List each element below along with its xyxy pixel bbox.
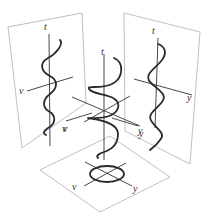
left-v-label-upper: v bbox=[19, 85, 24, 96]
right-t-label: t bbox=[152, 25, 155, 36]
right-y-label-upper: y bbox=[186, 92, 192, 103]
bottom-v-label: v bbox=[72, 181, 77, 192]
right-panel-frame bbox=[124, 13, 200, 164]
left-panel-vt: t v v bbox=[8, 13, 92, 148]
right-panel-yt: t y y bbox=[112, 13, 200, 164]
bottom-panel-vy: v y bbox=[40, 136, 170, 212]
center-t-label: t bbox=[101, 46, 104, 57]
center-y-label: y bbox=[137, 125, 143, 136]
bottom-y-label: y bbox=[132, 183, 138, 194]
center-v-label: v bbox=[63, 123, 68, 134]
left-t-label: t bbox=[44, 21, 47, 32]
helix-projection-diagram: t v v t y y v y t v y bbox=[0, 0, 210, 218]
